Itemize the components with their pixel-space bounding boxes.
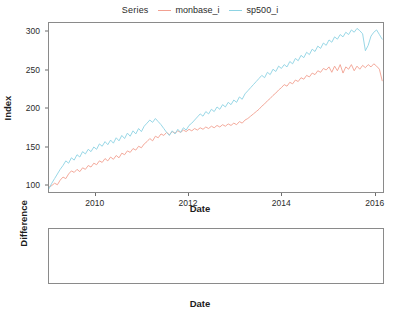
difference-y-axis-title: Difference [18,200,29,246]
legend-label-monbase: monbase_i [176,5,220,15]
y-tick-label: 100 [26,180,40,190]
index-plot-lines [49,23,384,193]
legend-swatch-sp500 [229,10,242,11]
x-tick-mark [95,193,96,196]
difference-plot-lines [49,229,384,284]
index-y-axis-title: Index [1,78,15,138]
series-line-sp500_i [49,28,382,188]
series-line-monbase_i [49,64,382,187]
legend-entry-monbase[interactable]: monbase_i [158,5,220,15]
legend-title: Series [122,5,149,15]
difference-chart-panel: Difference Date [0,218,400,315]
x-tick-mark [188,193,189,196]
difference-x-axis-title: Date [0,298,400,309]
legend-swatch-monbase [158,10,171,11]
x-tick-mark [375,193,376,196]
chart-page: Series monbase_i sp500_i 100150200250300… [0,0,400,315]
index-chart-panel: 100150200250300 Index 2010201220142016 D… [0,18,400,214]
index-x-axis-title: Date [0,203,400,214]
difference-plot-area [48,228,384,284]
y-tick-label: 250 [26,65,40,75]
index-plot-area [48,22,384,193]
y-tick-label: 150 [26,142,40,152]
chart-legend: Series monbase_i sp500_i [0,2,400,18]
legend-entry-sp500[interactable]: sp500_i [229,5,279,15]
y-tick-label: 300 [26,26,40,36]
x-tick-mark [281,193,282,196]
legend-label-sp500: sp500_i [247,5,279,15]
y-tick-label: 200 [26,103,40,113]
